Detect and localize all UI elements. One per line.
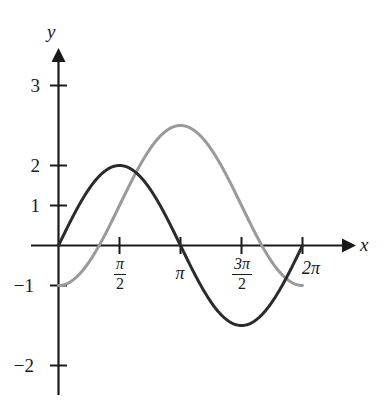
x-axis xyxy=(31,239,356,253)
y-tick-label-2: 2 xyxy=(8,156,40,175)
y-tick-label-3: 3 xyxy=(8,76,40,95)
y-axis xyxy=(52,48,66,395)
y-tick-label-neg2: −2 xyxy=(2,356,34,375)
x-tick-label-3pi-over-2: 3π 2 xyxy=(219,256,265,293)
x-tick-denominator-3pi-over-2: 2 xyxy=(232,275,252,293)
y-tick-label-1: 1 xyxy=(8,196,40,215)
gray-sine-curve xyxy=(59,126,303,286)
x-tick-numerator-pi-over-2: π xyxy=(114,256,126,275)
y-axis-label: y xyxy=(47,22,55,41)
x-tick-denominator-pi-over-2: 2 xyxy=(114,275,126,293)
x-tick-numerator-3pi-over-2: 3π xyxy=(232,256,252,275)
y-tick-label-neg1: −1 xyxy=(2,276,34,295)
plot-canvas xyxy=(0,0,384,400)
graph-figure: y x 3 2 1 −1 −2 π 2 π 3π 2 2π xyxy=(0,0,384,400)
x-axis-label: x xyxy=(360,235,368,254)
x-tick-label-pi: π xyxy=(162,264,198,282)
x-tick-label-pi-over-2: π 2 xyxy=(100,256,140,293)
x-tick-label-2pi: 2π xyxy=(302,259,342,277)
